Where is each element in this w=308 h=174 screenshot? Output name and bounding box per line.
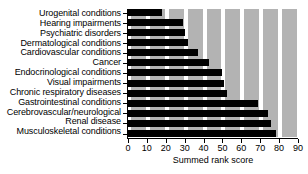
bar[interactable]	[128, 69, 222, 76]
bar[interactable]	[128, 39, 188, 46]
x-axis-tick-label: 50	[217, 143, 227, 153]
bar-row	[128, 49, 298, 56]
bar-row	[128, 19, 298, 26]
y-axis-tick	[123, 103, 127, 104]
bar[interactable]	[128, 100, 258, 107]
y-axis-tick	[123, 33, 127, 34]
y-axis-tick	[123, 73, 127, 74]
bar-row	[128, 130, 298, 137]
x-axis-tick-label: 10	[142, 143, 152, 153]
bar-row	[128, 120, 298, 127]
bar-row	[128, 80, 298, 87]
y-axis-tick	[123, 43, 127, 44]
bar[interactable]	[128, 80, 224, 87]
y-axis-tick	[123, 13, 127, 14]
x-axis-tick-label: 40	[199, 143, 209, 153]
x-axis-tick-label: 80	[274, 143, 284, 153]
x-axis-tick-label: 60	[236, 143, 246, 153]
y-axis-tick	[123, 134, 127, 135]
plot-area	[128, 9, 298, 137]
bar-row	[128, 110, 298, 117]
bar[interactable]	[128, 90, 227, 97]
bar[interactable]	[128, 130, 276, 137]
category-label: Hearing impairments	[40, 19, 124, 29]
bar[interactable]	[128, 9, 162, 16]
bar[interactable]	[128, 120, 271, 127]
category-label: Musculoskeletal conditions	[17, 127, 124, 137]
y-axis-tick	[123, 83, 127, 84]
x-axis-title: Summed rank score	[128, 155, 298, 165]
y-axis-tick	[123, 53, 127, 54]
bar-row	[128, 59, 298, 66]
bar-row	[128, 100, 298, 107]
bar-row	[128, 69, 298, 76]
category-label: Gastrointestinal conditions	[18, 98, 124, 108]
bar-row	[128, 39, 298, 46]
category-label: Psychiatric disorders	[40, 29, 124, 39]
x-axis-tick-label: 30	[180, 143, 190, 153]
y-axis-tick	[123, 63, 127, 64]
y-axis-line	[127, 9, 128, 138]
x-axis-tick-label: 70	[255, 143, 265, 153]
y-axis-tick	[123, 93, 127, 94]
bar[interactable]	[128, 59, 209, 66]
bar[interactable]	[128, 49, 198, 56]
category-axis-labels: Urogenital conditions Hearing impairment…	[0, 9, 124, 137]
x-axis-tick-label: 0	[125, 143, 130, 153]
y-axis-tick	[123, 23, 127, 24]
x-axis-tick-label: 20	[161, 143, 171, 153]
y-axis-tick	[123, 113, 127, 114]
bar[interactable]	[128, 29, 185, 36]
bar[interactable]	[128, 110, 268, 117]
bar[interactable]	[128, 19, 183, 26]
bar-chart-figure: Urogenital conditions Hearing impairment…	[0, 0, 308, 174]
bars-group	[128, 9, 298, 137]
y-axis-tick	[123, 123, 127, 124]
x-axis-tick-label: 90	[293, 143, 303, 153]
x-axis-line: 0102030405060708090	[127, 138, 298, 139]
bar-row	[128, 90, 298, 97]
bar-row	[128, 29, 298, 36]
bar-row	[128, 9, 298, 16]
